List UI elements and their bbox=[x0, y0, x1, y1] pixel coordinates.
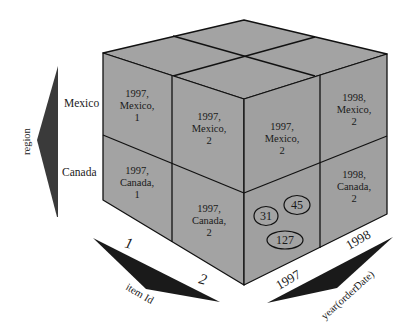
svg-text:2: 2 bbox=[206, 135, 211, 146]
region-member-mexico: Mexico bbox=[64, 97, 99, 109]
measure-value-31: 31 bbox=[254, 207, 278, 226]
svg-text:Mexico,: Mexico, bbox=[192, 123, 227, 134]
svg-text:1997,: 1997, bbox=[197, 111, 221, 122]
svg-text:1: 1 bbox=[134, 189, 139, 200]
svg-text:2: 2 bbox=[351, 193, 356, 204]
svg-text:45: 45 bbox=[291, 198, 303, 212]
svg-text:127: 127 bbox=[276, 233, 294, 247]
svg-text:31: 31 bbox=[260, 209, 272, 223]
svg-text:Mexico,: Mexico, bbox=[337, 104, 372, 115]
region-axis-arrow bbox=[37, 66, 58, 217]
svg-text:1997,: 1997, bbox=[125, 165, 149, 176]
region-member-canada: Canada bbox=[62, 166, 96, 178]
svg-text:Mexico,: Mexico, bbox=[265, 133, 300, 144]
item-member-1: 1 bbox=[123, 234, 134, 251]
svg-text:2: 2 bbox=[279, 145, 284, 156]
svg-text:2: 2 bbox=[206, 227, 211, 238]
svg-text:Canada,: Canada, bbox=[120, 177, 154, 188]
svg-text:1: 1 bbox=[134, 112, 139, 123]
svg-text:Mexico,: Mexico, bbox=[120, 100, 155, 111]
svg-text:1997,: 1997, bbox=[125, 88, 149, 99]
measure-value-45: 45 bbox=[284, 196, 310, 215]
measure-value-127: 127 bbox=[267, 231, 303, 249]
item-member-2: 2 bbox=[197, 270, 209, 288]
svg-text:1997,: 1997, bbox=[270, 121, 294, 132]
region-axis-label: region bbox=[21, 127, 32, 155]
svg-text:Canada,: Canada, bbox=[192, 215, 226, 226]
svg-text:1998,: 1998, bbox=[342, 169, 366, 180]
svg-text:Canada,: Canada, bbox=[337, 181, 371, 192]
svg-text:1998,: 1998, bbox=[342, 92, 366, 103]
svg-text:1997,: 1997, bbox=[197, 203, 221, 214]
data-cube-diagram: region Mexico Canada 1997, Mexico, 1 199… bbox=[0, 0, 409, 334]
svg-text:2: 2 bbox=[351, 116, 356, 127]
